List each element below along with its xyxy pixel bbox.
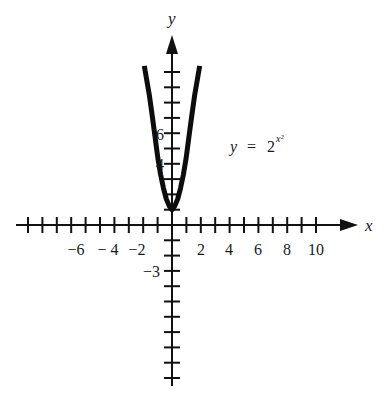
equation-base: 2	[267, 138, 275, 155]
y-axis-arrow-icon	[166, 35, 178, 54]
x-tick-label: 4	[225, 241, 233, 258]
x-tick-label: − 4	[97, 241, 118, 258]
y-axis-label: y	[166, 9, 176, 28]
y-tick-label: −3	[143, 263, 160, 280]
x-tick-label: 10	[308, 241, 324, 258]
equation-equals: =	[247, 138, 256, 155]
x-tick-label: 2	[197, 241, 205, 258]
y-tick-label: 4	[156, 156, 164, 173]
x-tick-label: −6	[67, 241, 84, 258]
equation-label: y = 2 x²	[228, 133, 284, 156]
function-graph: x y −6 − 4 −2 2 4 6 8 10 6 4 −3 y = 2 x²	[0, 0, 390, 403]
axes	[16, 35, 358, 386]
x-axis-label: x	[364, 216, 373, 235]
equation-lhs: y	[228, 138, 238, 156]
x-tick-label: −2	[128, 241, 145, 258]
equation-exponent: x²	[275, 133, 284, 144]
x-tick-labels: −6 − 4 −2 2 4 6 8 10	[67, 241, 324, 258]
x-tick-label: 8	[283, 241, 291, 258]
x-axis-arrow-icon	[340, 219, 358, 231]
y-tick-label: 6	[156, 126, 164, 143]
y-tick-labels: 6 4 −3	[143, 126, 164, 280]
x-tick-label: 6	[254, 241, 262, 258]
